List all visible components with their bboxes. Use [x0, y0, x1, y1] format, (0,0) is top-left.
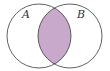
set-a-label: A — [21, 8, 30, 21]
venn-diagram: A B — [0, 0, 110, 71]
set-b-label: B — [76, 8, 85, 21]
